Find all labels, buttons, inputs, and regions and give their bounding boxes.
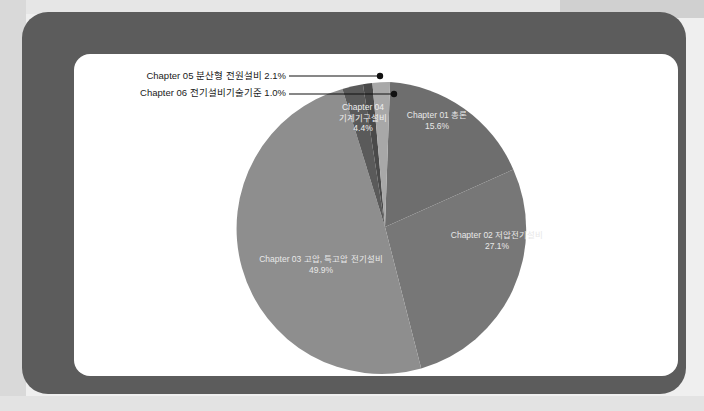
slice-label-chapter-03-name: Chapter 03 고압, 특고압 전기설비 <box>259 254 383 264</box>
slice-label-chapter-01-name: Chapter 01 총론 <box>407 110 467 120</box>
slice-label-chapter-04: Chapter 04 기계기구설비 4.4% <box>317 102 409 134</box>
leader-dot-chapter-05 <box>377 73 383 79</box>
slice-label-chapter-04-name2: 기계기구설비 <box>317 113 409 124</box>
screenshot-root: Chapter 05 분산형 전원설비 2.1% Chapter 06 전기설비… <box>0 0 704 411</box>
slice-label-chapter-03-value: 49.9% <box>226 265 416 276</box>
slice-label-chapter-02: Chapter 02 저압전기설비 27.1% <box>422 230 572 251</box>
slice-label-chapter-03: Chapter 03 고압, 특고압 전기설비 49.9% <box>226 254 416 275</box>
background-strip-bottom <box>0 396 704 411</box>
leader-label-chapter-05: Chapter 05 분산형 전원설비 2.1% <box>134 70 286 82</box>
slice-label-chapter-04-value: 4.4% <box>317 123 409 134</box>
slice-label-chapter-04-name: Chapter 04 <box>342 102 384 112</box>
chart-panel: Chapter 05 분산형 전원설비 2.1% Chapter 06 전기설비… <box>74 54 678 376</box>
slice-label-chapter-02-value: 27.1% <box>422 241 572 252</box>
slice-label-chapter-02-name: Chapter 02 저압전기설비 <box>451 230 543 240</box>
pie-chart: Chapter 05 분산형 전원설비 2.1% Chapter 06 전기설비… <box>74 54 678 376</box>
leader-label-chapter-06: Chapter 06 전기설비기술기준 1.0% <box>118 87 286 99</box>
slide-frame: Chapter 05 분산형 전원설비 2.1% Chapter 06 전기설비… <box>22 12 686 394</box>
leader-dot-chapter-06 <box>391 91 397 97</box>
